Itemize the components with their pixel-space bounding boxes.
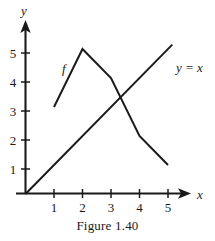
y-tick-label-3: 3 [10,104,17,119]
y-tick-label-5: 5 [10,46,17,61]
y-axis-label: y [19,3,27,18]
x-tick-label-4: 4 [136,200,143,215]
y-tick-label-2: 2 [10,133,17,148]
plot-area: 1 2 3 4 5 1 2 3 4 5 y x f y = x [0,0,215,241]
figure-container: 1 2 3 4 5 1 2 3 4 5 y x f y = x Figure 1… [0,0,215,241]
x-tick-label-1: 1 [51,200,58,215]
x-tick-label-5: 5 [165,200,172,215]
curve-label-y-equals-x: y = x [174,60,203,75]
curve-label-f: f [62,61,68,76]
x-axis-label: x [196,187,203,202]
figure-caption: Figure 1.40 [0,218,215,234]
x-tick-label-2: 2 [79,200,86,215]
x-tick-label-3: 3 [108,200,115,215]
y-tick-label-4: 4 [10,75,17,90]
y-tick-label-1: 1 [10,162,17,177]
